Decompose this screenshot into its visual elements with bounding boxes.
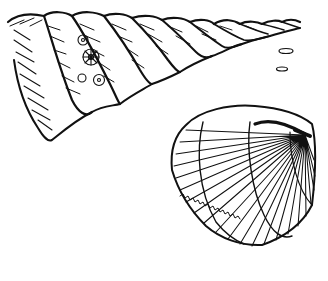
cockle-shell — [172, 106, 315, 246]
shells-engraving — [0, 0, 328, 281]
pebble — [277, 67, 288, 71]
tower-shell — [8, 12, 300, 140]
illustration-canvas — [0, 0, 328, 281]
rosette-flowers — [78, 35, 105, 86]
pebble — [279, 49, 293, 54]
